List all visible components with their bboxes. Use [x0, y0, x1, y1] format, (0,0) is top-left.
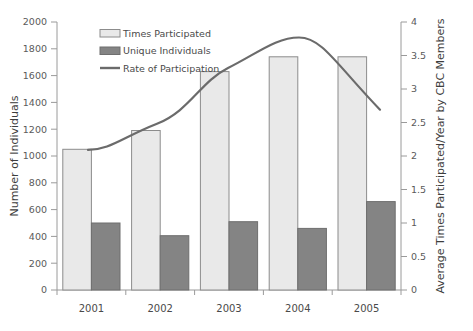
- left-axis: 0 200 400 600 800 1000 1200 1400 1600 18…: [8, 16, 57, 295]
- legend-entry-unique-individuals: Unique Individuals: [100, 45, 211, 56]
- right-tick-label: 3: [411, 83, 417, 94]
- right-tick-label: 1: [411, 217, 417, 228]
- right-tick-label: 4: [411, 16, 417, 27]
- left-tick-label: 2000: [23, 16, 47, 27]
- right-tick-label: 3.5: [411, 50, 426, 61]
- left-tick-label: 1200: [23, 124, 47, 135]
- legend-swatch-bar-light: [100, 30, 120, 38]
- left-axis-ticks: [51, 22, 57, 290]
- x-axis: 2001 2002 2003 2004 2005: [57, 290, 401, 314]
- x-tick-label: 2003: [216, 303, 241, 314]
- x-tick-label: 2005: [354, 303, 379, 314]
- left-tick-label: 200: [29, 258, 47, 269]
- bar-times-participated: [200, 72, 229, 290]
- x-tick-label: 2004: [285, 303, 310, 314]
- legend-label: Unique Individuals: [123, 45, 211, 56]
- bar-unique-individuals: [298, 228, 327, 290]
- bar-unique-individuals: [229, 222, 258, 290]
- participation-chart: 0 200 400 600 800 1000 1200 1400 1600 18…: [0, 0, 473, 331]
- bar-unique-individuals: [160, 236, 189, 290]
- bar-times-participated: [132, 131, 161, 291]
- right-tick-label: 2: [411, 150, 417, 161]
- left-tick-label: 1400: [23, 97, 47, 108]
- left-tick-label: 1600: [23, 70, 47, 81]
- bar-times-participated: [63, 149, 92, 290]
- right-axis: 0 0.5 1 1.5 2 2.5 3 3.5 4 Average Times …: [401, 16, 447, 295]
- bar-times-participated: [269, 57, 298, 290]
- chart-container: 0 200 400 600 800 1000 1200 1400 1600 18…: [0, 0, 473, 331]
- legend-label: Times Participated: [122, 28, 211, 39]
- legend-label: Rate of Participation: [123, 63, 219, 74]
- left-tick-label: 600: [29, 204, 47, 215]
- left-tick-label: 800: [29, 177, 47, 188]
- x-tick-label: 2001: [79, 303, 104, 314]
- left-tick-label: 400: [29, 231, 47, 242]
- left-tick-label: 0: [41, 284, 47, 295]
- left-axis-title: Number of Individuals: [8, 95, 21, 216]
- left-tick-label: 1800: [23, 43, 47, 54]
- right-tick-label: 1.5: [411, 184, 426, 195]
- left-tick-label: 1000: [23, 150, 47, 161]
- right-axis-ticks: [401, 22, 407, 290]
- right-tick-label: 0: [411, 284, 417, 295]
- legend-entry-times-participated: Times Participated: [100, 28, 211, 39]
- bar-unique-individuals: [91, 223, 120, 290]
- legend-swatch-bar-dark: [100, 47, 120, 55]
- bar-unique-individuals: [367, 202, 396, 290]
- right-tick-label: 0.5: [411, 251, 426, 262]
- x-tick-label: 2002: [147, 303, 172, 314]
- right-tick-label: 2.5: [411, 117, 426, 128]
- right-axis-title: Average Times Participated/Year by CBC M…: [434, 18, 447, 293]
